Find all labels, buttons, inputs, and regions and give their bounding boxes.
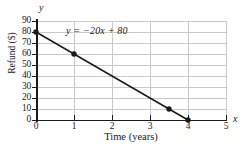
refund-vs-time-chart: y x 0102030405060708090012345 Refund ($)… bbox=[0, 0, 248, 146]
data-point-marker bbox=[71, 51, 76, 56]
data-point-marker bbox=[33, 29, 38, 34]
data-point-marker bbox=[185, 117, 190, 122]
trend-line bbox=[36, 32, 188, 120]
data-point-marker bbox=[166, 106, 171, 111]
data-series bbox=[0, 0, 248, 146]
